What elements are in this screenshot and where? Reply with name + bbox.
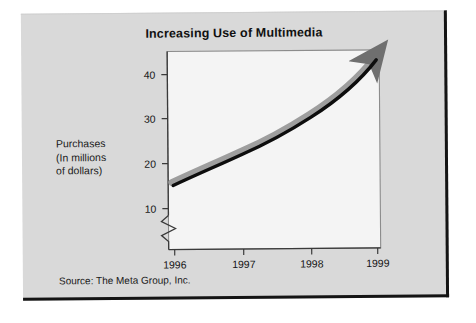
x-tick-label-1998: 1998 xyxy=(300,257,324,269)
x-tick-label-1996: 1996 xyxy=(163,258,187,270)
chart-plot: 40 30 20 10 1996 1997 1998 1999 xyxy=(21,10,449,300)
y-tick-label-30: 30 xyxy=(144,113,156,125)
y-tick-label-20: 20 xyxy=(144,158,156,170)
y-axis-tick-labels: 40 30 20 10 xyxy=(144,69,157,215)
y-tick-label-40: 40 xyxy=(144,69,156,81)
x-axis-tick-labels: 1996 1997 1998 1999 xyxy=(163,257,390,271)
x-tick-label-1997: 1997 xyxy=(232,258,256,270)
x-tick-label-1999: 1999 xyxy=(366,257,390,269)
plot-area-frame xyxy=(167,50,381,250)
figure-root: Increasing Use of Multimedia Purchases (… xyxy=(0,0,476,323)
y-tick-label-10: 10 xyxy=(145,203,157,215)
scan-skew-wrapper: Increasing Use of Multimedia Purchases (… xyxy=(0,0,476,323)
source-note: Source: The Meta Group, Inc. xyxy=(59,274,191,286)
chart-panel: Increasing Use of Multimedia Purchases (… xyxy=(21,10,449,300)
